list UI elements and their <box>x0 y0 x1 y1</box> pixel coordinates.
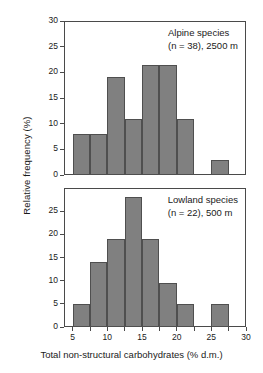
y-tick-label: 20 <box>49 66 58 76</box>
y-tick-mark <box>60 175 64 176</box>
histogram-bar <box>90 262 107 327</box>
x-tick-mark <box>176 327 177 331</box>
histogram-bar <box>159 283 176 327</box>
annotation-alpine-line1: Alpine species <box>168 27 238 40</box>
y-tick-label: 5 <box>53 143 58 153</box>
annotation-lowland-line2: (n = 22), 500 m <box>168 207 238 220</box>
x-tick-mark <box>90 327 91 331</box>
histogram-bar <box>177 304 194 327</box>
y-tick-mark <box>60 98 64 99</box>
x-tick-label: 15 <box>137 332 146 342</box>
histogram-bar <box>142 65 159 175</box>
x-tick-label: 25 <box>207 332 216 342</box>
y-tick-mark <box>60 211 64 212</box>
histogram-bar <box>211 160 228 175</box>
y-tick-label: 0 <box>53 169 58 179</box>
histogram-bar <box>107 77 124 175</box>
x-axis-title: Total non-structural carbohydrates (% d.… <box>0 349 263 360</box>
histogram-bar <box>159 65 176 175</box>
x-tick-mark <box>211 327 212 331</box>
y-tick-mark <box>60 327 64 328</box>
y-tick-mark <box>60 234 64 235</box>
y-tick-label: 15 <box>49 252 58 262</box>
y-tick-mark <box>60 280 64 281</box>
histogram-bar <box>177 119 194 175</box>
figure-histogram-panels: Relative frequency (%) 051015202530 Alpi… <box>0 0 263 373</box>
y-tick-mark <box>60 46 64 47</box>
panel-lowland-species: 051015202551015202530 Lowland species (n… <box>64 188 246 327</box>
histogram-bar <box>125 197 142 327</box>
y-tick-mark <box>60 149 64 150</box>
y-tick-label: 10 <box>49 118 58 128</box>
histogram-bar <box>107 239 124 327</box>
x-tick-label: 30 <box>241 332 250 342</box>
y-tick-mark <box>60 303 64 304</box>
x-tick-mark <box>246 327 247 331</box>
x-tick-mark <box>228 327 229 331</box>
annotation-alpine: Alpine species (n = 38), 2500 m <box>168 27 238 52</box>
histogram-bar <box>90 134 107 175</box>
y-tick-mark <box>60 257 64 258</box>
annotation-alpine-line2: (n = 38), 2500 m <box>168 40 238 53</box>
x-tick-label: 20 <box>172 332 181 342</box>
x-tick-mark <box>72 327 73 331</box>
y-tick-label: 25 <box>49 41 58 51</box>
y-tick-mark <box>60 21 64 22</box>
histogram-bar <box>73 134 90 175</box>
histogram-bar <box>142 239 159 327</box>
y-tick-label: 5 <box>53 298 58 308</box>
x-tick-mark <box>142 327 143 331</box>
x-tick-label: 10 <box>103 332 112 342</box>
x-tick-mark <box>194 327 195 331</box>
annotation-lowland: Lowland species (n = 22), 500 m <box>168 194 238 219</box>
y-tick-label: 30 <box>49 15 58 25</box>
panel-alpine-species: 051015202530 Alpine species (n = 38), 25… <box>64 21 246 175</box>
x-tick-label: 5 <box>70 332 75 342</box>
histogram-bar <box>73 304 90 327</box>
y-tick-mark <box>60 123 64 124</box>
y-axis-title: Relative frequency (%) <box>21 76 32 256</box>
y-tick-label: 0 <box>53 321 58 331</box>
y-tick-label: 10 <box>49 275 58 285</box>
y-tick-mark <box>60 72 64 73</box>
histogram-bar <box>211 304 228 327</box>
x-tick-mark <box>159 327 160 331</box>
y-tick-label: 25 <box>49 205 58 215</box>
y-tick-label: 15 <box>49 92 58 102</box>
x-tick-mark <box>107 327 108 331</box>
y-tick-label: 20 <box>49 228 58 238</box>
x-tick-mark <box>124 327 125 331</box>
histogram-bar <box>125 119 142 175</box>
annotation-lowland-line1: Lowland species <box>168 194 238 207</box>
